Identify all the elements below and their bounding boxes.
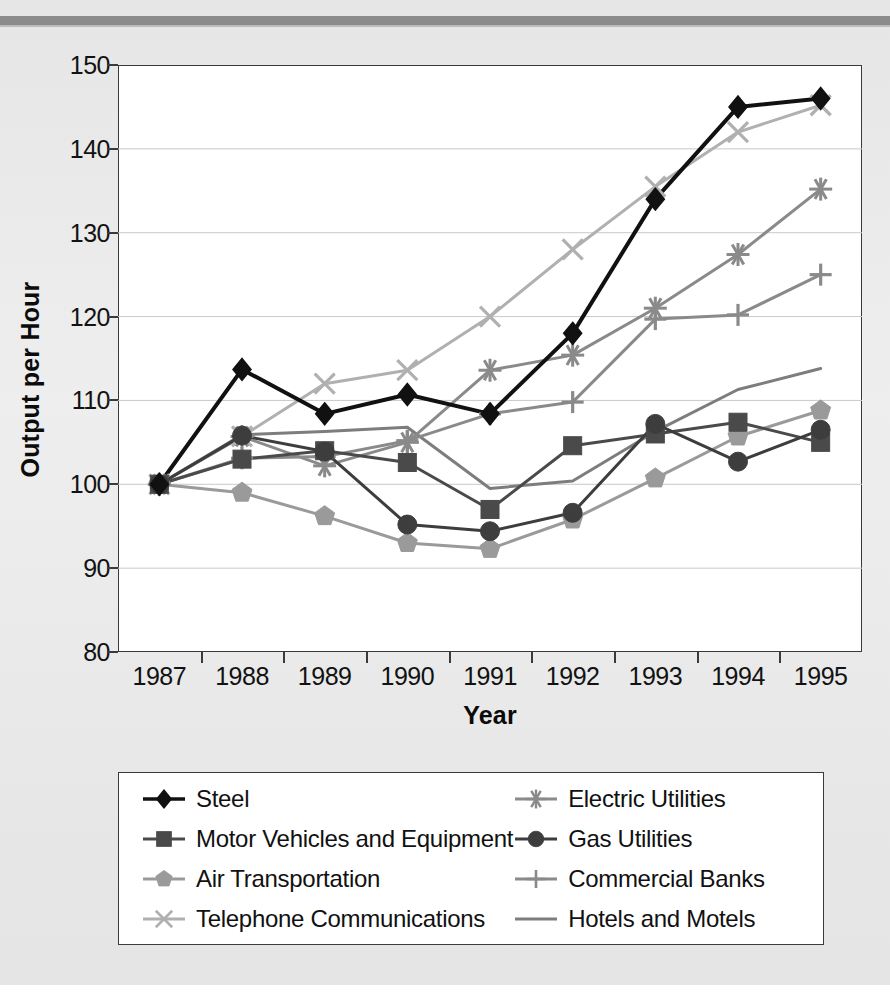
data-point-marker [156,870,172,886]
legend-label: Hotels and Motels [568,905,755,933]
data-point-marker [563,239,583,259]
legend-label: Air Transportation [196,865,380,893]
y-tick-mark [107,567,118,569]
legend-item[interactable]: Gas Utilities [513,825,823,853]
data-point-marker [527,790,546,809]
series-telephone-communications [159,105,820,484]
y-tick-label: 110 [72,386,110,415]
y-tick-label: 90 [83,554,110,583]
y-tick-mark [107,651,118,653]
data-point-marker [811,420,830,439]
data-point-marker [729,452,748,471]
data-point-marker [810,264,832,286]
x-tick-label: 1994 [711,662,765,691]
y-tick-label: 80 [83,638,110,667]
x-tick-mark [779,652,781,663]
data-point-marker [315,506,335,525]
data-point-marker [561,344,584,367]
legend-item[interactable]: Motor Vehicles and Equipment [141,825,513,853]
data-point-marker [729,413,747,431]
data-point-marker [157,832,172,847]
data-point-marker [645,468,665,487]
legend-item[interactable]: Electric Utilities [513,785,823,813]
legend-label: Electric Utilities [568,785,725,813]
data-point-marker [481,500,499,518]
data-point-marker [727,304,749,326]
legend-item[interactable]: Steel [141,785,513,813]
y-axis-title: Output per Hour [16,281,45,477]
chart-figure: 8090100110120130140150 19871988198919901… [0,27,890,985]
data-point-marker [563,503,582,522]
data-point-marker [233,426,252,445]
x-tick-mark [531,652,533,663]
data-point-marker [564,437,582,455]
legend-label: Telephone Communications [196,905,485,933]
data-point-marker [157,790,172,808]
legend-marker-plus-icon [513,867,559,891]
legend-item[interactable]: Hotels and Motels [513,905,823,933]
x-tick-mark [449,652,451,663]
data-point-marker [315,442,334,461]
legend-label: Gas Utilities [568,825,692,853]
x-axis-title: Year [463,701,517,730]
legend-marker-diamond-icon [141,787,187,811]
data-point-marker [527,870,545,888]
data-point-marker [398,384,416,406]
x-tick-mark [366,652,368,663]
y-tick-label: 100 [70,470,110,499]
page-bottom-margin [0,985,890,1003]
x-tick-label: 1992 [546,662,600,691]
legend-marker-asterisk-icon [513,787,559,811]
legend-label: Motor Vehicles and Equipment [196,825,513,853]
data-point-marker [811,400,831,419]
y-tick-mark [107,316,118,318]
chart-plot-area: 8090100110120130140150 19871988198919901… [118,65,862,652]
data-point-marker [398,515,417,534]
data-point-marker [481,522,500,541]
chart-svg [118,65,862,652]
x-tick-mark [283,652,285,663]
top-rule [0,16,890,25]
y-tick-mark [107,148,118,150]
legend-marker-x-icon [141,907,187,931]
data-point-marker [528,831,544,847]
figure-page: 8090100110120130140150 19871988198919901… [0,0,890,1003]
y-tick-label: 130 [70,218,110,247]
x-tick-mark [201,652,203,663]
data-point-marker [316,403,334,425]
markers-electric-utilities [148,178,832,496]
x-tick-label: 1991 [463,662,517,691]
data-point-marker [398,453,416,471]
x-tick-label: 1993 [629,662,683,691]
legend-label: Commercial Banks [568,865,765,893]
y-tick-mark [107,232,118,234]
series-hotels-and-motels [159,369,820,489]
legend-marker-pentagon-icon [141,867,187,891]
legend-items: SteelElectric UtilitiesMotor Vehicles an… [119,773,823,944]
legend-label: Steel [196,785,249,813]
x-tick-label: 1989 [298,662,352,691]
data-point-marker [728,122,748,142]
data-point-marker [397,532,417,551]
y-tick-mark [107,483,118,485]
data-point-marker [233,450,251,468]
data-point-marker [646,414,665,433]
x-tick-label: 1988 [215,662,269,691]
x-tick-mark [697,652,699,663]
y-tick-mark [107,399,118,401]
chart-legend: SteelElectric UtilitiesMotor Vehicles an… [118,772,824,945]
y-tick-mark [107,64,118,66]
legend-marker-circle-icon [513,827,559,851]
legend-marker-square-icon [141,827,187,851]
x-tick-mark [614,652,616,663]
legend-item[interactable]: Air Transportation [141,865,513,893]
y-tick-label: 140 [70,134,110,163]
legend-marker-none-icon [513,907,559,931]
data-point-marker [232,482,252,501]
x-tick-label: 1987 [133,662,187,691]
x-tick-label: 1995 [794,662,848,691]
y-tick-label: 120 [70,302,110,331]
x-tick-label: 1990 [381,662,435,691]
legend-item[interactable]: Commercial Banks [513,865,823,893]
legend-item[interactable]: Telephone Communications [141,905,513,933]
